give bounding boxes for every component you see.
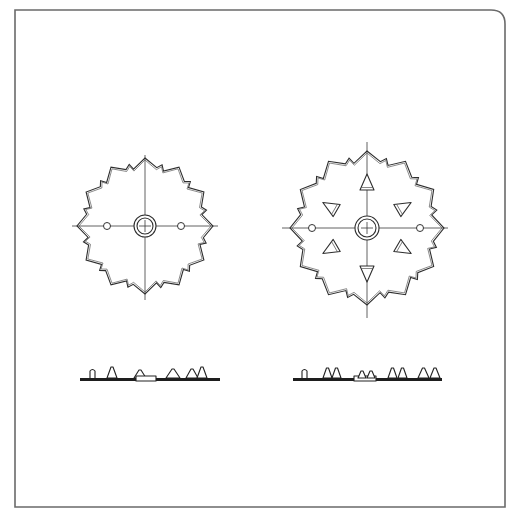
mounting-hole bbox=[104, 223, 111, 230]
mounting-hole bbox=[417, 225, 424, 232]
mounting-hole bbox=[178, 223, 185, 230]
profile-post bbox=[302, 370, 307, 379]
profile-hub-block bbox=[136, 376, 156, 381]
mounting-hole bbox=[309, 225, 316, 232]
technical-drawing bbox=[0, 0, 511, 521]
profile-post bbox=[90, 370, 95, 379]
